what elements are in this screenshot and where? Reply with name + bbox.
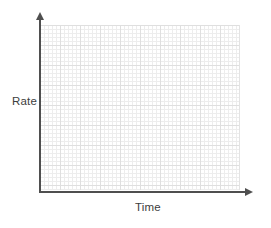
y-axis-arrow-icon	[36, 12, 44, 20]
grid-area	[40, 25, 240, 190]
y-axis-line	[39, 14, 41, 192]
x-axis-label: Time	[124, 201, 172, 213]
blank-rate-vs-time-graph: Rate Time	[0, 0, 271, 228]
x-axis-line	[39, 191, 246, 193]
y-axis-label: Rate	[12, 95, 37, 107]
x-axis-arrow-icon	[245, 188, 253, 196]
